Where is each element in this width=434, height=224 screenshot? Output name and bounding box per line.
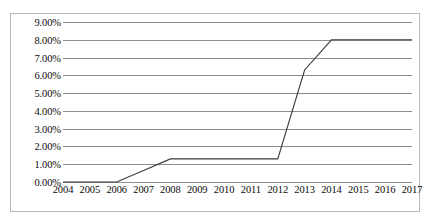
x-axis-tick-label: 2005 [80,184,101,195]
y-axis-tick-label: 2.00% [34,141,61,152]
x-axis-tick-label: 2012 [267,184,288,195]
x-axis-tick-label: 2017 [402,184,423,195]
y-axis-tick-label: 9.00% [34,17,61,28]
y-axis: 0.00%1.00%2.00%3.00%4.00%5.00%6.00%7.00%… [11,14,63,211]
y-axis-tick-label: 3.00% [34,123,61,134]
x-axis-tick-label: 2011 [241,184,261,195]
chart-container: 0.00%1.00%2.00%3.00%4.00%5.00%6.00%7.00%… [10,13,420,212]
x-axis-tick-label: 2006 [106,184,127,195]
x-axis-tick-label: 2009 [187,184,208,195]
y-axis-tick-label: 6.00% [34,70,61,81]
x-axis-tick-label: 2014 [321,184,342,195]
x-axis-tick-label: 2013 [294,184,315,195]
chart-plot-wrapper: 0.00%1.00%2.00%3.00%4.00%5.00%6.00%7.00%… [11,14,419,211]
x-axis-tick-label: 2007 [133,184,154,195]
y-axis-tick-label: 5.00% [34,88,61,99]
x-axis-tick-label: 2010 [214,184,235,195]
x-axis: 2004200520062007200820092010201120122013… [63,184,412,204]
x-axis-tick-label: 2008 [160,184,181,195]
data-series-line [63,22,412,182]
x-axis-tick-label: 2015 [348,184,369,195]
y-axis-tick-label: 8.00% [34,34,61,45]
x-axis-tick-label: 2016 [375,184,396,195]
y-axis-tick-label: 1.00% [34,159,61,170]
x-axis-tick-label: 2004 [53,184,74,195]
y-axis-tick-label: 4.00% [34,105,61,116]
series-polyline [63,40,412,182]
plot-area [63,22,412,182]
y-axis-tick-label: 7.00% [34,52,61,63]
